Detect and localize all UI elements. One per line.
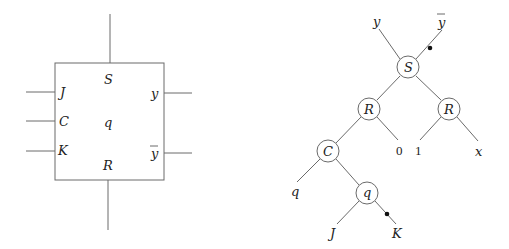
leaf-0: 0 bbox=[396, 143, 403, 158]
inversion-dot-k bbox=[385, 212, 390, 217]
block-label-y: y bbox=[150, 86, 159, 101]
edge-ybar-s bbox=[416, 30, 442, 59]
edge-r2-1 bbox=[420, 117, 441, 140]
block-label-s: S bbox=[104, 72, 113, 87]
edge-c-qnode bbox=[336, 159, 359, 185]
block-label-j: J bbox=[57, 85, 66, 100]
edge-s-r1 bbox=[377, 76, 400, 100]
edge-r2-x bbox=[457, 117, 478, 141]
edge-r1-0 bbox=[377, 117, 398, 140]
node-r-left-label: R bbox=[363, 102, 374, 117]
block-label-q: q bbox=[104, 115, 112, 130]
leaf-j: J bbox=[327, 226, 336, 241]
edge-s-r2 bbox=[416, 76, 441, 100]
inversion-dot-ybar bbox=[428, 46, 433, 51]
leaf-x: x bbox=[475, 144, 483, 159]
expression-tree: S R R C q y y 0 1 x q J K bbox=[291, 14, 483, 241]
flip-flop-block: S q R J C K y y bbox=[26, 14, 192, 230]
edge-c-q bbox=[297, 159, 320, 182]
edge-r1-c bbox=[336, 117, 361, 143]
edge-q-j bbox=[337, 201, 359, 224]
leaf-k: K bbox=[391, 226, 403, 241]
leaf-q: q bbox=[291, 184, 299, 199]
block-label-r: R bbox=[102, 158, 113, 173]
leaf-1: 1 bbox=[415, 143, 422, 158]
node-s-label: S bbox=[404, 60, 413, 75]
block-label-k: K bbox=[57, 143, 69, 158]
node-q-label: q bbox=[363, 185, 371, 200]
block-label-c: C bbox=[59, 114, 69, 129]
edge-y-s bbox=[379, 29, 400, 59]
node-c-label: C bbox=[323, 144, 333, 159]
leaf-ybar: y bbox=[437, 15, 446, 30]
block-label-ybar: y bbox=[150, 146, 159, 161]
node-r-right-label: R bbox=[443, 102, 454, 117]
diagram-canvas: S q R J C K y y S R R C bbox=[0, 0, 509, 249]
leaf-y: y bbox=[372, 14, 381, 29]
